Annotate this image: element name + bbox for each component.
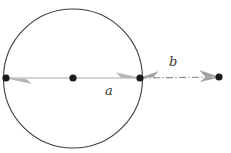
label-a: a [105, 84, 113, 97]
center-point [69, 74, 76, 81]
external-point [215, 73, 222, 80]
right-circle-point [136, 74, 143, 81]
figure-canvas [0, 0, 231, 153]
label-b: b [169, 55, 177, 68]
left-circle-point [2, 74, 9, 81]
arrowhead-a-left-icon [6, 78, 31, 83]
geometry-figure: a b [0, 0, 231, 153]
arrowhead-a-right-icon [117, 73, 141, 78]
